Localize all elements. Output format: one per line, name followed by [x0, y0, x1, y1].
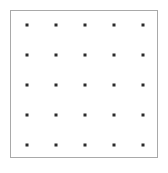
grid-dot — [26, 144, 29, 147]
grid-dot — [84, 54, 87, 57]
grid-dot — [55, 84, 58, 87]
grid-dot — [142, 114, 145, 117]
grid-dot — [142, 54, 145, 57]
figure-canvas — [0, 0, 168, 173]
grid-dot — [55, 54, 58, 57]
grid-dot — [84, 144, 87, 147]
grid-dot — [84, 84, 87, 87]
grid-dot — [142, 144, 145, 147]
grid-dot — [55, 114, 58, 117]
grid-dot — [113, 54, 116, 57]
grid-dot — [113, 24, 116, 27]
grid-dot — [113, 114, 116, 117]
plot-border — [10, 10, 158, 158]
grid-dot — [113, 84, 116, 87]
grid-dot — [26, 84, 29, 87]
grid-dot — [113, 144, 116, 147]
dot-grid — [11, 11, 157, 157]
grid-dot — [142, 24, 145, 27]
grid-dot — [84, 114, 87, 117]
grid-dot — [26, 114, 29, 117]
grid-dot — [26, 54, 29, 57]
grid-dot — [55, 144, 58, 147]
grid-dot — [142, 84, 145, 87]
grid-dot — [84, 24, 87, 27]
grid-dot — [55, 24, 58, 27]
grid-dot — [26, 24, 29, 27]
